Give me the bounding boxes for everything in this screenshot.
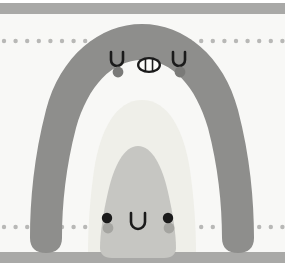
decorative-dot bbox=[199, 39, 203, 43]
decorative-dot bbox=[199, 225, 203, 229]
character-illustration bbox=[0, 0, 285, 270]
decorative-dot bbox=[211, 225, 215, 229]
top-gray-band bbox=[0, 3, 285, 14]
decorative-dot bbox=[71, 39, 75, 43]
large-creature-blush-right bbox=[175, 67, 186, 78]
decorative-dot bbox=[25, 39, 29, 43]
large-creature-blush-left bbox=[113, 67, 124, 78]
small-creature-eye-right bbox=[163, 213, 173, 223]
decorative-dot bbox=[25, 225, 29, 229]
decorative-dot bbox=[37, 39, 41, 43]
small-creature-eye-left bbox=[102, 213, 112, 223]
large-creature-tooth bbox=[146, 57, 151, 73]
decorative-dot bbox=[222, 39, 226, 43]
large-creature-mouth bbox=[137, 57, 161, 73]
decorative-dot bbox=[2, 39, 6, 43]
decorative-dot bbox=[48, 39, 52, 43]
decorative-dot bbox=[269, 39, 273, 43]
decorative-dot bbox=[2, 225, 6, 229]
decorative-dot bbox=[257, 39, 261, 43]
decorative-dot bbox=[13, 225, 17, 229]
decorative-dot bbox=[245, 39, 249, 43]
decorative-dot bbox=[71, 225, 75, 229]
decorative-dot bbox=[280, 225, 284, 229]
illustration-canvas bbox=[0, 0, 285, 270]
decorative-dot bbox=[83, 225, 87, 229]
decorative-dot bbox=[280, 39, 284, 43]
decorative-dot bbox=[13, 39, 17, 43]
decorative-dot bbox=[257, 225, 261, 229]
decorative-dot bbox=[269, 225, 273, 229]
decorative-dot bbox=[83, 39, 87, 43]
small-creature-blush-right bbox=[164, 223, 175, 234]
decorative-dot bbox=[234, 39, 238, 43]
decorative-dot bbox=[211, 39, 215, 43]
small-creature-blush-left bbox=[103, 223, 114, 234]
decorative-dot bbox=[60, 39, 64, 43]
